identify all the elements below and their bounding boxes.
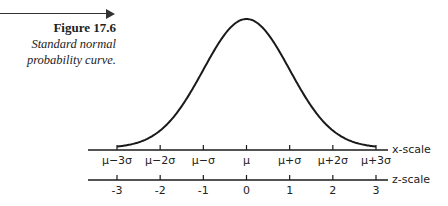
- z-scale-axis: -3-2-10123z-scale: [88, 173, 430, 197]
- tick-label: μ−3σ: [102, 154, 132, 167]
- tick-label: -1: [198, 184, 209, 197]
- x-scale-axis: μ−3σμ−2σμ−σμμ+σμ+2σμ+3σx-scale: [88, 143, 431, 167]
- tick-label: μ+2σ: [318, 154, 348, 167]
- tick-label: 2: [329, 184, 336, 197]
- tick-label: μ: [243, 154, 250, 167]
- tick-label: -2: [155, 184, 166, 197]
- tick-label: μ+3σ: [361, 154, 391, 167]
- tick-label: 1: [286, 184, 293, 197]
- tick-label: -3: [112, 184, 123, 197]
- tick-label: 3: [373, 184, 380, 197]
- axis-name: z-scale: [392, 173, 430, 186]
- tick-label: μ−σ: [192, 154, 215, 167]
- tick-label: μ+σ: [278, 154, 301, 167]
- tick-label: 0: [243, 184, 250, 197]
- normal-curve-chart: μ−3σμ−2σμ−σμμ+σμ+2σμ+3σx-scale -3-2-1012…: [0, 0, 448, 206]
- tick-label: μ−2σ: [145, 154, 175, 167]
- normal-curve: [117, 19, 376, 147]
- axis-name: x-scale: [392, 143, 431, 156]
